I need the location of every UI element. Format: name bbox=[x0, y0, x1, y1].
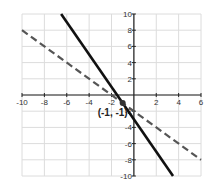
chart: -10-8-6-4-2246108642-2-4-6-8-10 (-1, -1) bbox=[0, 0, 212, 193]
intersection-point bbox=[120, 100, 126, 106]
x-tick-label: 2 bbox=[154, 98, 159, 107]
y-tick-label: 8 bbox=[127, 26, 132, 35]
y-tick-label: -6 bbox=[125, 140, 133, 149]
x-tick-label: -10 bbox=[16, 98, 28, 107]
y-tick-label: 4 bbox=[127, 59, 132, 68]
y-tick-label: -8 bbox=[125, 156, 133, 165]
y-tick-label: -10 bbox=[120, 172, 132, 181]
x-tick-label: 4 bbox=[176, 98, 181, 107]
y-tick-label: -4 bbox=[125, 123, 133, 132]
y-tick-label: 6 bbox=[127, 42, 132, 51]
x-tick-label: -2 bbox=[108, 98, 116, 107]
x-tick-label: 6 bbox=[199, 98, 204, 107]
x-tick-label: -6 bbox=[63, 98, 71, 107]
y-tick-label: 2 bbox=[127, 75, 132, 84]
y-tick-label: 10 bbox=[123, 10, 132, 19]
x-tick-label: -8 bbox=[41, 98, 49, 107]
x-tick-label: -4 bbox=[86, 98, 94, 107]
point-label: (-1, -1) bbox=[98, 107, 128, 118]
